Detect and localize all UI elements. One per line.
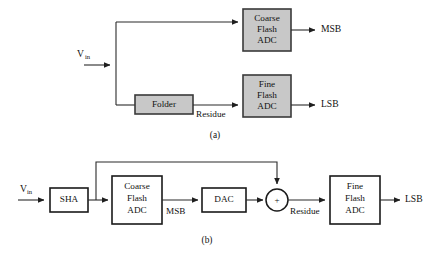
block-coarse-flash-adc-a-line2: Flash [257, 24, 277, 34]
block-fine-flash-adc-b-line3: ADC [345, 205, 364, 215]
wire-label-residue-a: Residue [196, 109, 226, 119]
wire-label-msb-b: MSB [166, 206, 185, 216]
figure-root: V in Coarse Flash ADC MSB Folder Residue [0, 0, 431, 262]
block-coarse-flash-adc-a-line1: Coarse [254, 13, 280, 23]
input-label-vin-b: V [20, 183, 27, 194]
caption-a: (a) [210, 130, 220, 141]
block-fine-flash-adc-a-line1: Fine [259, 79, 275, 89]
input-label-vin-a: V [77, 48, 84, 59]
block-fine-flash-adc-a-line2: Flash [257, 90, 277, 100]
block-dac-b-label: DAC [214, 194, 233, 204]
diagram-a-group: V in Coarse Flash ADC MSB Folder Residue [77, 9, 341, 141]
block-coarse-flash-adc-b-line3: ADC [127, 205, 146, 215]
block-fine-flash-adc-a-line3: ADC [257, 101, 276, 111]
block-diagram-svg: V in Coarse Flash ADC MSB Folder Residue [0, 0, 431, 262]
block-fine-flash-adc-b-line1: Fine [347, 181, 363, 191]
block-fine-flash-adc-b-line2: Flash [345, 193, 365, 203]
block-coarse-flash-adc-a-line3: ADC [257, 35, 276, 45]
caption-b: (b) [202, 235, 213, 246]
output-label-msb-a: MSB [321, 23, 341, 34]
input-subscript-vin-b: in [27, 188, 33, 195]
block-coarse-flash-adc-b-line1: Coarse [124, 181, 150, 191]
block-folder-a-label: Folder [152, 99, 176, 109]
input-subscript-vin-a: in [85, 53, 91, 60]
block-coarse-flash-adc-b-line2: Flash [127, 193, 147, 203]
output-label-lsb-b: LSB [405, 193, 423, 204]
wire-label-residue-b: Residue [290, 206, 320, 216]
output-label-lsb-a: LSB [321, 98, 339, 109]
block-sha-b-label: SHA [60, 194, 79, 204]
summing-node-sign-b: + [274, 195, 279, 205]
diagram-b-group: V in SHA Coarse Flash ADC MSB DAC [18, 162, 423, 246]
